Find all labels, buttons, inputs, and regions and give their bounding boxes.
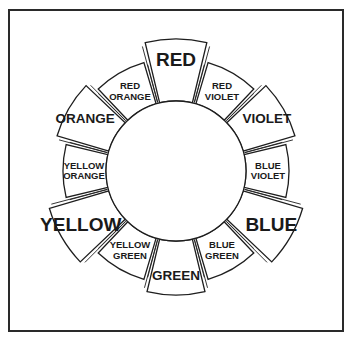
segment-label: YELLOWORANGE [63, 159, 105, 181]
segment-label: YELLOW [40, 214, 121, 235]
segment-label: BLUE [245, 214, 297, 235]
segment-label: BLUEVIOLET [251, 159, 286, 181]
segment-label: VIOLET [243, 110, 293, 125]
color-wheel: REDREDVIOLETVIOLETBLUEVIOLETBLUEBLUEGREE… [0, 0, 349, 341]
color-wheel-center [106, 101, 246, 241]
segment-label: RED [156, 49, 196, 70]
segment-label: ORANGE [55, 110, 114, 125]
segment-label: GREEN [152, 268, 200, 283]
segment-label: BLUEGREEN [205, 239, 239, 261]
segment-label: YELLOWGREEN [110, 239, 151, 261]
